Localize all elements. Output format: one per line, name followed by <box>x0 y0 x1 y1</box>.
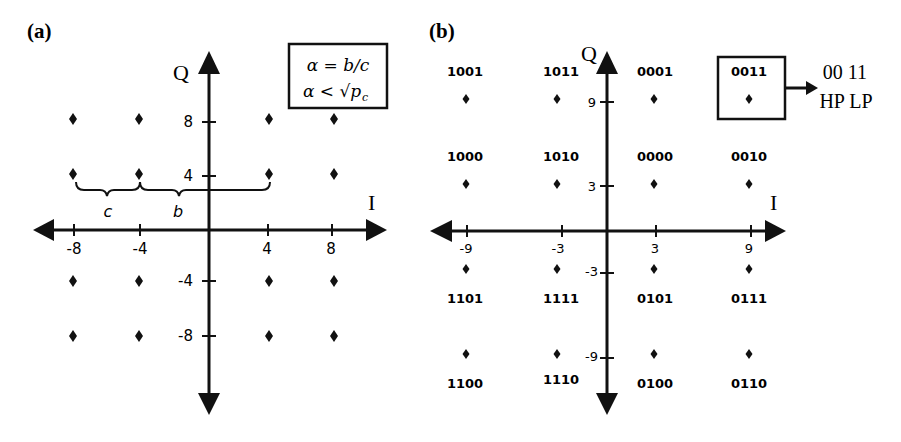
callout-arrow-icon <box>806 81 818 95</box>
panel-a-y-tick: 4 <box>183 167 193 185</box>
brace-b-label: b <box>173 202 183 221</box>
panel-b-q-label: Q <box>581 41 597 66</box>
code-label: 1110 <box>543 372 579 387</box>
code-label: 0100 <box>637 376 673 391</box>
code-label: 0001 <box>637 64 673 79</box>
panel-a-y-tick: 8 <box>183 113 193 131</box>
code-label: 1101 <box>447 291 483 306</box>
code-label: 1011 <box>543 64 579 79</box>
panel-a-x-arrow-left-icon <box>33 219 54 241</box>
code-label: 1000 <box>447 149 483 164</box>
code-label: 0110 <box>731 376 767 391</box>
panel-b-y-tick: 9 <box>588 95 596 110</box>
panel-b-x-arrow-left-icon <box>430 220 452 242</box>
panel-b-label: (b) <box>429 19 455 43</box>
panel-b-y-arrow-up-icon <box>596 51 618 74</box>
panel-b-i-label: I <box>770 190 777 215</box>
panel-a-y-tick: -8 <box>178 327 193 345</box>
panel-b-y-tick: 3 <box>588 179 596 194</box>
panel-b-axes <box>430 51 786 415</box>
constellation-figure: (a) Q I -8 -4 4 8 8 4 - <box>0 0 901 442</box>
code-label: 1111 <box>543 291 579 306</box>
panel-a-braces <box>76 182 270 196</box>
panel-b-x-tick: 9 <box>745 241 753 256</box>
panel-a-x-tick: -4 <box>133 240 148 258</box>
callout-bits: 00 11 <box>823 61 867 83</box>
panel-a-i-label: I <box>368 190 375 215</box>
formula-subscript: c <box>362 91 368 104</box>
code-label: 1100 <box>447 376 483 391</box>
panel-a-y-arrow-up-icon <box>198 51 220 74</box>
panel-b-x-tick: -9 <box>460 241 473 256</box>
panel-a-points <box>69 113 338 342</box>
brace-b <box>140 182 270 196</box>
panel-a-x-arrow-right-icon <box>366 219 387 241</box>
code-label: 0010 <box>731 149 767 164</box>
panel-b-x-arrow-right-icon <box>765 220 786 242</box>
panel-b-x-tick: -3 <box>552 241 565 256</box>
formula-line-1: α = b/c <box>307 55 370 75</box>
panel-a-x-tick: 4 <box>262 240 272 258</box>
panel-b-y-tick: -9 <box>585 349 598 364</box>
panel-b-y-arrow-down-icon <box>596 393 618 415</box>
panel-a-label: (a) <box>27 19 52 43</box>
panel-a-x-tick: -8 <box>67 240 82 258</box>
code-label: 1001 <box>447 64 483 79</box>
code-label: 0111 <box>731 291 767 306</box>
panel-b: (b) Q I -9 -3 3 9 9 3 -3 <box>429 19 873 415</box>
panel-a: (a) Q I -8 -4 4 8 8 4 - <box>27 19 387 415</box>
code-label: 1010 <box>543 149 579 164</box>
code-label: 0000 <box>637 149 673 164</box>
panel-a-y-tick: -4 <box>178 272 193 290</box>
panel-a-q-label: Q <box>173 60 189 85</box>
code-label: 0101 <box>637 291 673 306</box>
callout-hp-lp: HP LP <box>819 90 872 112</box>
panel-a-y-arrow-down-icon <box>198 393 220 415</box>
brace-c <box>76 182 140 196</box>
panel-b-x-tick: 3 <box>651 241 659 256</box>
panel-b-y-tick: -3 <box>585 264 598 279</box>
formula-line-2: α < √p <box>303 81 361 101</box>
code-label: 0011 <box>731 64 767 79</box>
brace-c-label: c <box>104 202 113 221</box>
panel-a-x-tick: 8 <box>326 240 336 258</box>
